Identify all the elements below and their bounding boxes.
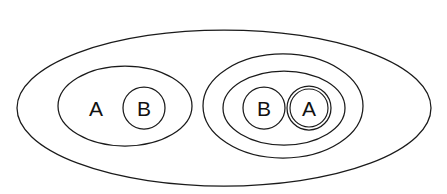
- right-group-outer-ellipse: [203, 54, 363, 158]
- right-set-a-label: A: [302, 97, 316, 120]
- diagram-canvas: A B B A: [0, 0, 447, 194]
- left-set-b-label: B: [137, 97, 151, 120]
- left-group-ellipse: [58, 66, 192, 146]
- right-group-inner-ellipse: [223, 71, 345, 145]
- right-set-b-label: B: [257, 97, 271, 120]
- left-set-a-label: A: [89, 97, 103, 120]
- outer-universe-ellipse: [17, 30, 431, 186]
- set-diagram: A B B A: [0, 0, 447, 194]
